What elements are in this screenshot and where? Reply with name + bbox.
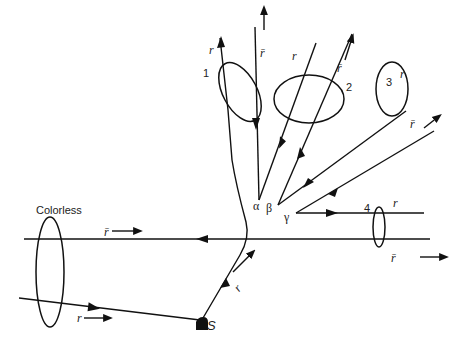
rbar-label-2: r̄	[337, 61, 342, 75]
rbar-label-colorless: r̄	[104, 225, 109, 239]
r-label-3: r	[400, 67, 405, 81]
vertex-alpha-label: α	[253, 199, 260, 213]
loop-2	[274, 75, 344, 123]
loop-4-label: 4	[364, 202, 370, 214]
r-label-4: r	[393, 196, 398, 210]
r-label-2: r	[292, 49, 297, 63]
antiquark-line-horizontal	[24, 235, 430, 243]
r-label-1: r	[209, 43, 214, 57]
source-label: S	[207, 318, 216, 333]
rbar-label-3: r̄	[410, 117, 415, 131]
vertex-beta-label: β	[266, 201, 272, 215]
rbar-label-4: r̄	[391, 251, 396, 265]
r-label-lower: r	[77, 311, 82, 325]
colorless-label: Colorless	[36, 204, 82, 216]
quark-line-lower	[19, 298, 200, 320]
rbar-label-1: r̄	[260, 46, 265, 60]
r-label-source: r	[231, 281, 245, 294]
quark-line-main	[203, 36, 247, 318]
loop-3-label: 3	[386, 76, 392, 88]
vertex-gamma-label: γ	[283, 210, 290, 224]
loop-1	[210, 56, 270, 128]
vertex-beta-lines	[278, 34, 406, 205]
color-flow-diagram: Colorless S 1 2 3 4 α β γ r r̄ r r̄ r r̄…	[0, 0, 461, 345]
loop-colorless	[36, 217, 64, 327]
loop-2-label: 2	[346, 81, 352, 93]
loop-1-label: 1	[203, 67, 209, 79]
